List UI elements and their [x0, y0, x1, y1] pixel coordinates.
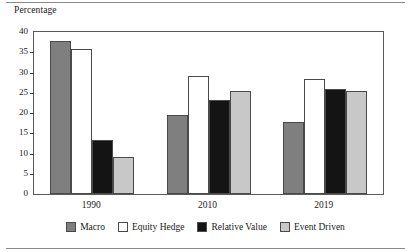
- chart-legend: MacroEquity HedgeRelative ValueEvent Dri…: [0, 222, 411, 232]
- y-axis-tick-label: 30: [19, 67, 28, 77]
- plot-area: 0510152025303540: [34, 32, 383, 194]
- y-axis-tick-mark: [30, 52, 34, 53]
- legend-swatch-icon: [66, 222, 76, 232]
- legend-label: Equity Hedge: [132, 222, 185, 232]
- bar-relative-value-1990: [92, 140, 113, 194]
- y-axis-tick-label: 35: [19, 46, 28, 56]
- legend-item-relative-value[interactable]: Relative Value: [197, 222, 267, 232]
- y-axis-tick-label: 25: [19, 87, 28, 97]
- bar-group-2019: [283, 32, 367, 194]
- y-axis-tick-mark: [30, 133, 34, 134]
- y-axis-title: Percentage: [14, 5, 57, 15]
- bar-group-1990: [50, 32, 134, 194]
- bar-event-driven-2019: [346, 91, 367, 194]
- bar-equity-hedge-2019: [304, 79, 325, 194]
- bar-macro-1990: [50, 41, 71, 194]
- legend-label: Relative Value: [211, 222, 267, 232]
- legend-swatch-icon: [118, 222, 128, 232]
- y-axis-tick-mark: [30, 174, 34, 175]
- figure-top-rule: [6, 2, 405, 3]
- y-axis-tick-mark: [30, 93, 34, 94]
- bar-macro-2019: [283, 122, 304, 194]
- y-axis-tick-mark: [30, 113, 34, 114]
- bar-relative-value-2019: [325, 89, 346, 194]
- plot-frame: 0510152025303540: [33, 31, 384, 195]
- legend-item-event-driven[interactable]: Event Driven: [280, 222, 345, 232]
- bar-event-driven-1990: [113, 157, 134, 194]
- legend-swatch-icon: [197, 222, 207, 232]
- y-axis-tick-label: 20: [19, 107, 28, 117]
- bar-group-2010: [167, 32, 251, 194]
- legend-label: Event Driven: [294, 222, 345, 232]
- bar-equity-hedge-1990: [71, 49, 92, 194]
- legend-item-equity-hedge[interactable]: Equity Hedge: [118, 222, 185, 232]
- y-axis-tick-mark: [30, 154, 34, 155]
- y-axis-tick-label: 0: [24, 188, 29, 198]
- bar-equity-hedge-2010: [188, 76, 209, 194]
- y-axis-tick-label: 40: [19, 26, 28, 36]
- legend-item-macro[interactable]: Macro: [66, 222, 105, 232]
- y-axis-tick-mark: [30, 73, 34, 74]
- y-axis-tick-label: 15: [19, 127, 28, 137]
- bar-event-driven-2010: [230, 91, 251, 194]
- bar-relative-value-2010: [209, 100, 230, 194]
- y-axis-tick-label: 10: [19, 148, 28, 158]
- x-axis-tick-label-2010: 2010: [198, 200, 217, 210]
- x-axis-tick-label-1990: 1990: [82, 200, 101, 210]
- x-axis-tick-label-2019: 2019: [314, 200, 333, 210]
- legend-label: Macro: [80, 222, 105, 232]
- bar-macro-2010: [167, 115, 188, 194]
- chart-figure: Percentage 0510152025303540 MacroEquity …: [0, 0, 411, 252]
- legend-swatch-icon: [280, 222, 290, 232]
- figure-bottom-rule: [6, 248, 405, 249]
- y-axis-tick-label: 5: [24, 168, 29, 178]
